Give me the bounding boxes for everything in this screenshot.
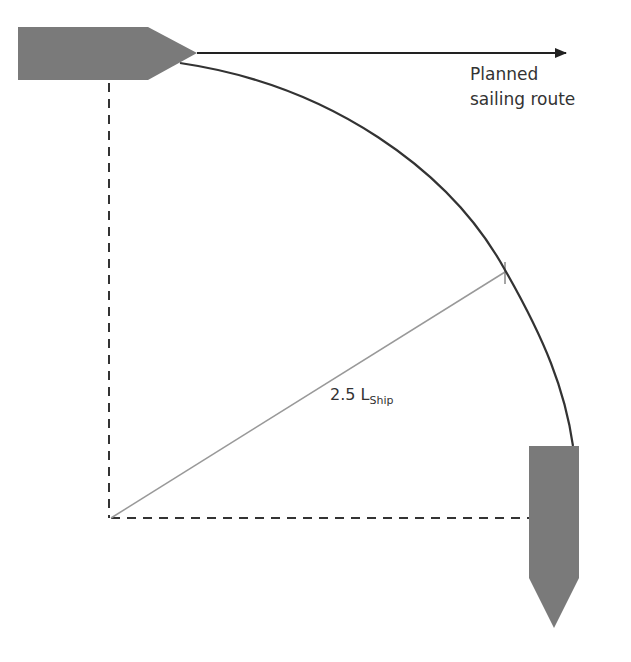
radius-line bbox=[111, 272, 505, 518]
route-label-line2: sailing route bbox=[470, 87, 575, 112]
route-label: Planned sailing route bbox=[470, 62, 575, 112]
ship-end bbox=[529, 446, 579, 628]
radius-subscript: Ship bbox=[369, 394, 393, 407]
ship-start bbox=[18, 27, 197, 80]
radius-label: 2.5 LShip bbox=[330, 385, 393, 407]
route-label-line1: Planned bbox=[470, 62, 575, 87]
radius-value: 2.5 L bbox=[330, 385, 369, 404]
